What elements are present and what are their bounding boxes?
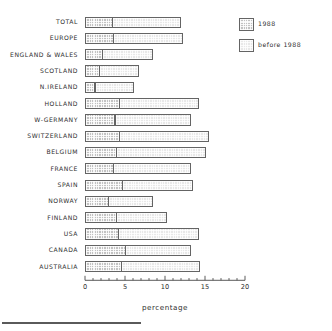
category-label: AUSTRALIA: [0, 264, 82, 270]
category-label: USA: [0, 231, 82, 237]
category-label: ENGLAND & WALES: [0, 52, 82, 58]
bar-segment-before-1988: [119, 98, 199, 109]
bar-area: [82, 128, 332, 144]
bar-segment-before-1988: [115, 114, 192, 125]
stacked-bar: [85, 17, 181, 28]
x-tick-label: 15: [195, 284, 215, 291]
stacked-bar: [85, 212, 167, 223]
stacked-bar: [85, 65, 139, 76]
legend-swatch-older: [239, 39, 254, 52]
bar-area: [82, 144, 332, 160]
chart-row: CANADA: [0, 242, 332, 258]
bar-area: [82, 112, 332, 128]
stacked-bar: [85, 163, 191, 174]
legend-swatch-recent: [239, 18, 254, 31]
chart-row: N.IRELAND: [0, 79, 332, 95]
category-label: BELGIUM: [0, 149, 82, 155]
bar-segment-1988: [85, 212, 117, 223]
bar-segment-1988: [85, 65, 100, 76]
stacked-bar: [85, 33, 183, 44]
bar-segment-1988: [85, 228, 119, 239]
bar-area: [82, 95, 332, 111]
bar-segment-before-1988: [121, 261, 200, 272]
chart-row: USA: [0, 226, 332, 242]
chart-row: FRANCE: [0, 161, 332, 177]
category-label: FINLAND: [0, 215, 82, 221]
bar-segment-1988: [85, 163, 114, 174]
chart-row: W-GERMANY: [0, 112, 332, 128]
category-label: EUROPE: [0, 35, 82, 41]
bar-area: [82, 258, 332, 274]
bar-area: [82, 242, 332, 258]
bar-area: [82, 161, 332, 177]
bar-segment-before-1988: [122, 180, 193, 191]
bar-segment-before-1988: [113, 163, 191, 174]
bar-area: [82, 63, 332, 79]
category-label: FRANCE: [0, 166, 82, 172]
category-label: N.IRELAND: [0, 84, 82, 90]
category-label: TOTAL: [0, 19, 82, 25]
category-label: HOLLAND: [0, 101, 82, 107]
category-label: CANADA: [0, 247, 82, 253]
bar-segment-before-1988: [95, 82, 134, 93]
x-axis-label: percentage: [85, 303, 245, 312]
stacked-bar-chart: TOTALEUROPEENGLAND & WALESSCOTLANDN.IREL…: [0, 0, 332, 331]
bar-area: [82, 210, 332, 226]
stacked-bar: [85, 131, 209, 142]
stacked-bar: [85, 261, 200, 272]
bar-segment-before-1988: [102, 49, 153, 60]
bar-area: [82, 177, 332, 193]
category-label: W-GERMANY: [0, 117, 82, 123]
chart-row: SPAIN: [0, 177, 332, 193]
chart-row: HOLLAND: [0, 95, 332, 111]
bar-segment-before-1988: [118, 228, 199, 239]
bar-segment-before-1988: [116, 147, 206, 158]
stacked-bar: [85, 196, 153, 207]
bar-segment-1988: [85, 33, 114, 44]
bar-segment-1988: [85, 98, 120, 109]
chart-row: AUSTRALIA: [0, 258, 332, 274]
bar-segment-1988: [85, 245, 126, 256]
bar-segment-1988: [85, 261, 122, 272]
chart-legend: 1988before 1988: [239, 18, 331, 60]
bar-segment-1988: [85, 147, 117, 158]
chart-row: FINLAND: [0, 210, 332, 226]
category-label: SWITZERLAND: [0, 133, 82, 139]
x-tick-label: 20: [235, 284, 255, 291]
bar-segment-before-1988: [125, 245, 191, 256]
bar-segment-before-1988: [108, 196, 153, 207]
bar-segment-before-1988: [113, 33, 183, 44]
bar-segment-1988: [85, 196, 109, 207]
stacked-bar: [85, 180, 193, 191]
bar-segment-before-1988: [99, 65, 138, 76]
chart-row: BELGIUM: [0, 144, 332, 160]
bar-segment-1988: [85, 49, 103, 60]
x-tick-label: 10: [155, 284, 175, 291]
stacked-bar: [85, 49, 153, 60]
bar-segment-1988: [85, 131, 120, 142]
stacked-bar: [85, 114, 191, 125]
bar-area: [82, 79, 332, 95]
footer-divider: [2, 322, 141, 324]
stacked-bar: [85, 245, 191, 256]
bar-segment-1988: [85, 17, 113, 28]
bar-area: [82, 226, 332, 242]
bar-area: [82, 193, 332, 209]
legend-item: before 1988: [239, 39, 331, 52]
stacked-bar: [85, 147, 206, 158]
chart-row: SCOTLAND: [0, 63, 332, 79]
x-tick-label: 0: [75, 284, 95, 291]
category-label: NORWAY: [0, 198, 82, 204]
legend-item: 1988: [239, 18, 331, 31]
category-label: SCOTLAND: [0, 68, 82, 74]
stacked-bar: [85, 228, 199, 239]
category-label: SPAIN: [0, 182, 82, 188]
legend-label: 1988: [258, 21, 276, 27]
bar-segment-before-1988: [116, 212, 167, 223]
chart-row: NORWAY: [0, 193, 332, 209]
x-tick-label: 5: [115, 284, 135, 291]
bar-segment-1988: [85, 114, 115, 125]
bar-segment-before-1988: [112, 17, 181, 28]
legend-label: before 1988: [258, 42, 301, 48]
bar-segment-before-1988: [119, 131, 209, 142]
